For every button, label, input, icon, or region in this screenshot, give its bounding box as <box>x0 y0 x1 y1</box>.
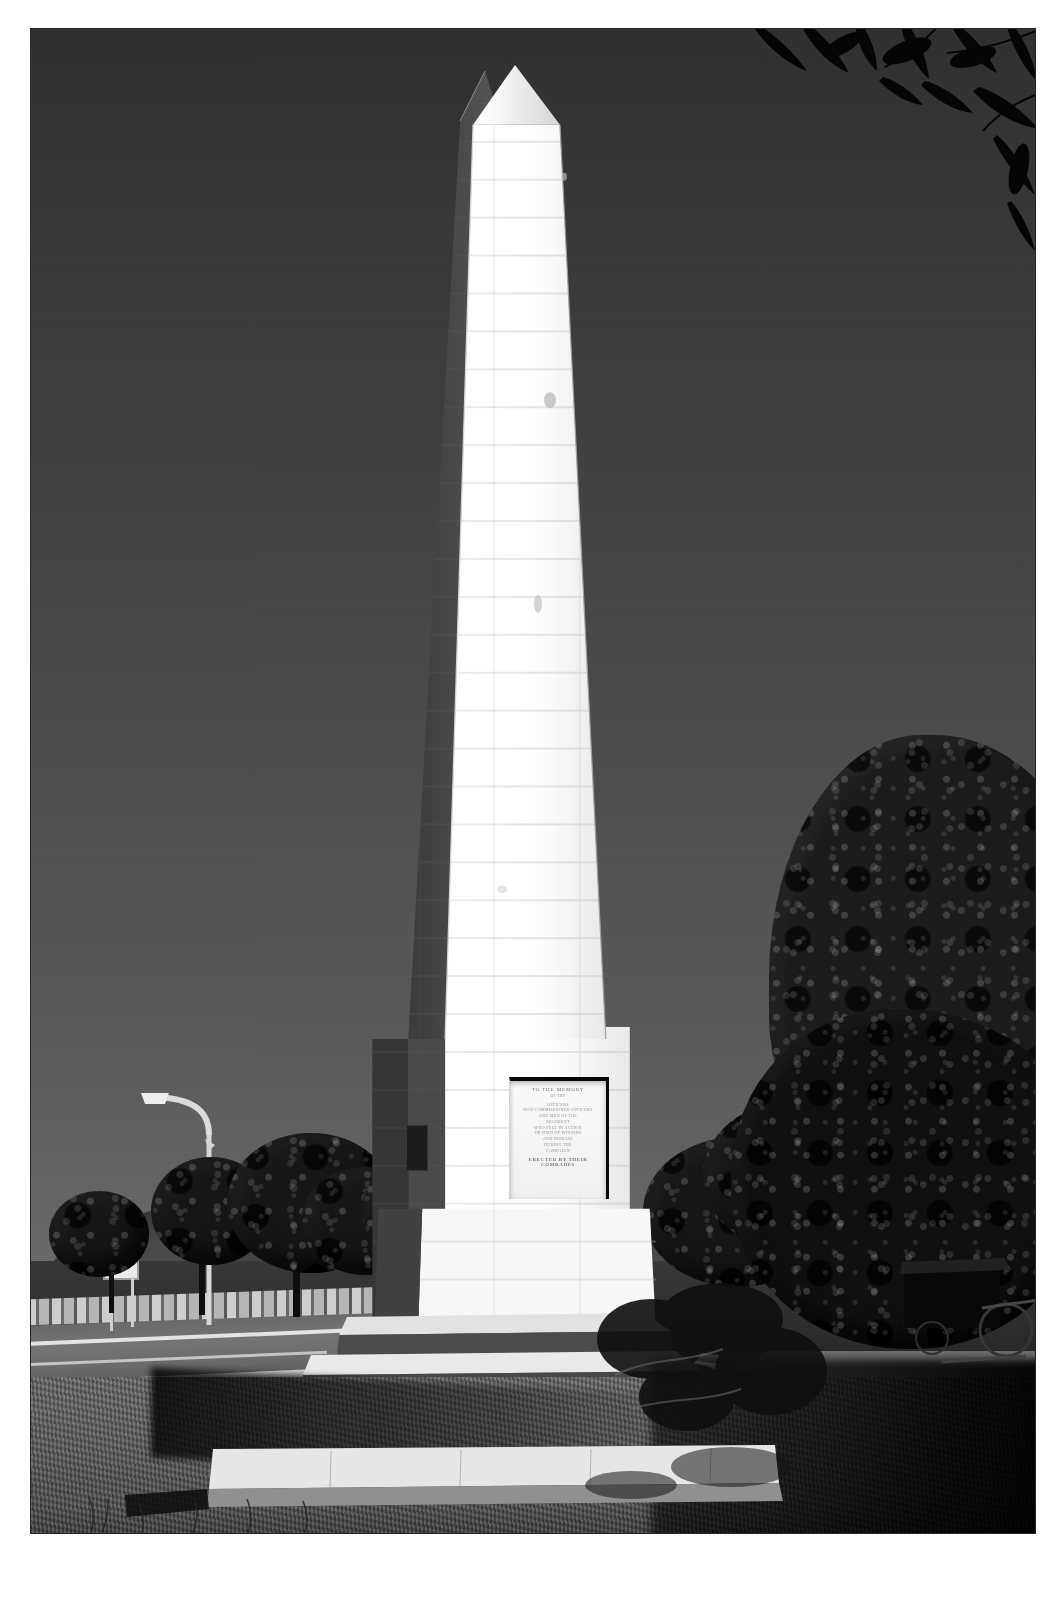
photograph-frame: TO THE MEMORY OF THE OFFICERS NON-COMMIS… <box>30 28 1036 1534</box>
shadow-face-panel <box>406 1125 428 1171</box>
foreground-shrub <box>591 1279 831 1459</box>
foliage-texture <box>49 1191 149 1277</box>
grass-tufts <box>71 1479 371 1533</box>
inscription-subheading: OF THE <box>515 1094 601 1098</box>
inscription-plaque: TO THE MEMORY OF THE OFFICERS NON-COMMIS… <box>509 1077 609 1199</box>
tree-left-1 <box>49 1191 149 1277</box>
inscription-footer: ERECTED BY THEIR COMRADES <box>515 1157 601 1167</box>
inscription-heading: TO THE MEMORY <box>515 1087 601 1093</box>
overhanging-leaves <box>711 29 1035 253</box>
page-root: TO THE MEMORY OF THE OFFICERS NON-COMMIS… <box>0 0 1063 1606</box>
inscription-body: OFFICERS NON-COMMISSIONED OFFICERS AND M… <box>515 1102 601 1154</box>
tree-left-5 <box>363 1145 513 1275</box>
inscription-line: CAMPAIGN <box>515 1148 601 1154</box>
dark-structure-right <box>886 1234 1035 1394</box>
inscription-text-block: TO THE MEMORY OF THE OFFICERS NON-COMMIS… <box>510 1081 606 1199</box>
foliage-texture <box>363 1145 513 1275</box>
photograph: TO THE MEMORY OF THE OFFICERS NON-COMMIS… <box>31 29 1035 1533</box>
